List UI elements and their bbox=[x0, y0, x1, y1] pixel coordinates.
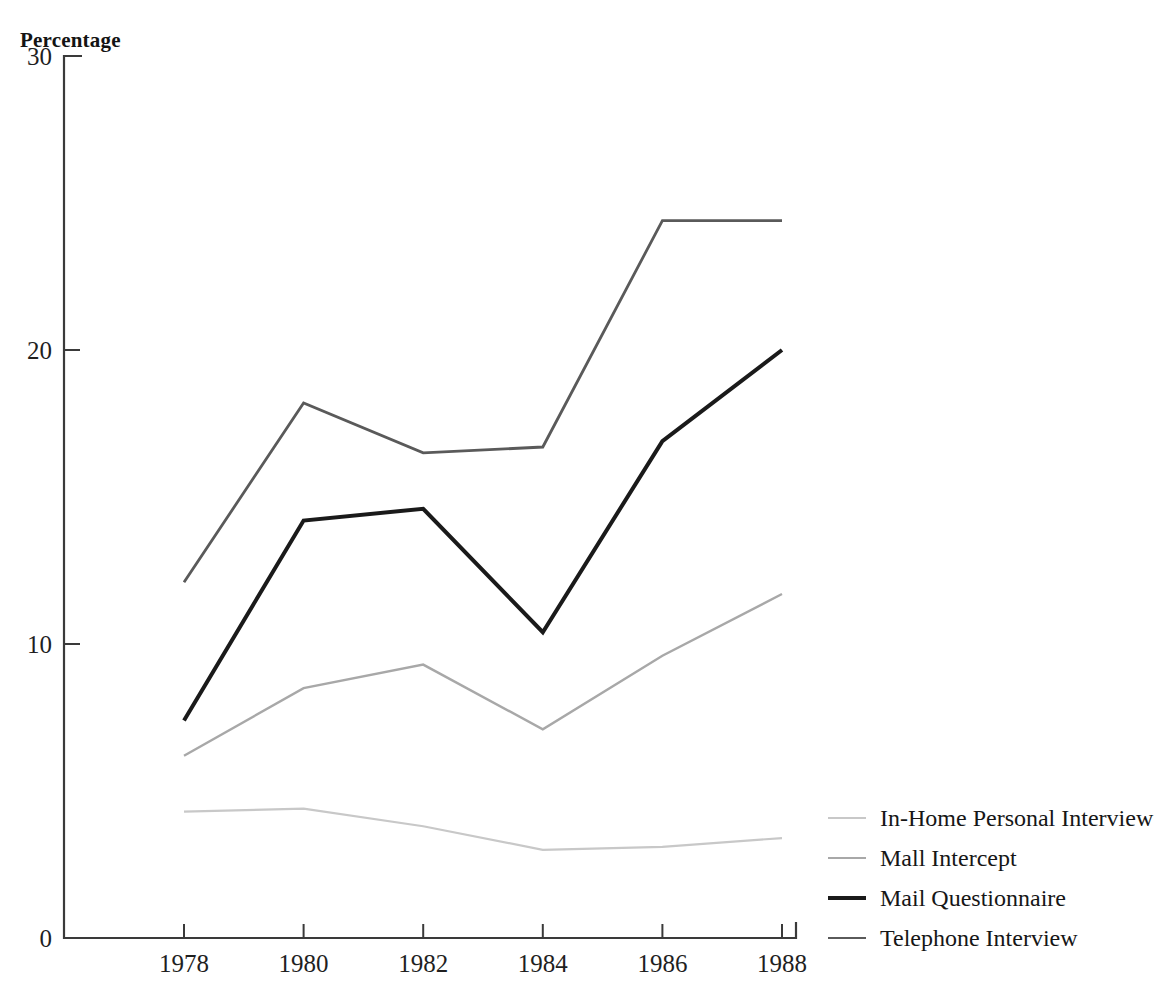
ytick-labels-group: 0102030 bbox=[27, 43, 52, 952]
x-axis-tick-label: 1980 bbox=[279, 950, 329, 977]
y-axis-tick-label: 10 bbox=[27, 631, 52, 658]
legend-item-label: Telephone Interview bbox=[880, 926, 1078, 950]
y-axis-tick-label: 20 bbox=[27, 337, 52, 364]
legend-swatch-line-icon bbox=[828, 896, 866, 900]
y-axis-tick-label: 0 bbox=[40, 925, 53, 952]
legend-item[interactable]: Mail Questionnaire bbox=[828, 878, 1158, 918]
series-line bbox=[184, 350, 782, 720]
axes-group bbox=[64, 56, 796, 938]
x-axis-tick-label: 1988 bbox=[757, 950, 807, 977]
xtick-labels-group: 197819801982198419861988 bbox=[159, 950, 807, 977]
legend-item-label: In-Home Personal Interview bbox=[880, 806, 1153, 830]
series-group bbox=[184, 221, 782, 850]
x-axis-tick-label: 1982 bbox=[398, 950, 448, 977]
legend-swatch-line-icon bbox=[828, 937, 866, 939]
y-axis-tick-label: 30 bbox=[27, 43, 52, 70]
legend-item[interactable]: Telephone Interview bbox=[828, 918, 1158, 958]
legend-swatch-line-icon bbox=[828, 817, 866, 819]
x-axis-tick-label: 1984 bbox=[518, 950, 569, 977]
series-line bbox=[184, 221, 782, 583]
legend-item-label: Mail Questionnaire bbox=[880, 886, 1066, 910]
legend-item[interactable]: Mall Intercept bbox=[828, 838, 1158, 878]
series-line bbox=[184, 809, 782, 850]
chart-legend: In-Home Personal InterviewMall Intercept… bbox=[828, 798, 1158, 958]
chart-page: Percentage 0102030 197819801982198419861… bbox=[0, 0, 1170, 1006]
x-axis-tick-label: 1986 bbox=[637, 950, 687, 977]
series-line bbox=[184, 594, 782, 756]
legend-swatch-line-icon bbox=[828, 857, 866, 859]
legend-item[interactable]: In-Home Personal Interview bbox=[828, 798, 1158, 838]
x-axis-tick-label: 1978 bbox=[159, 950, 209, 977]
legend-item-label: Mall Intercept bbox=[880, 846, 1017, 870]
chart-axis-lines bbox=[64, 56, 796, 938]
